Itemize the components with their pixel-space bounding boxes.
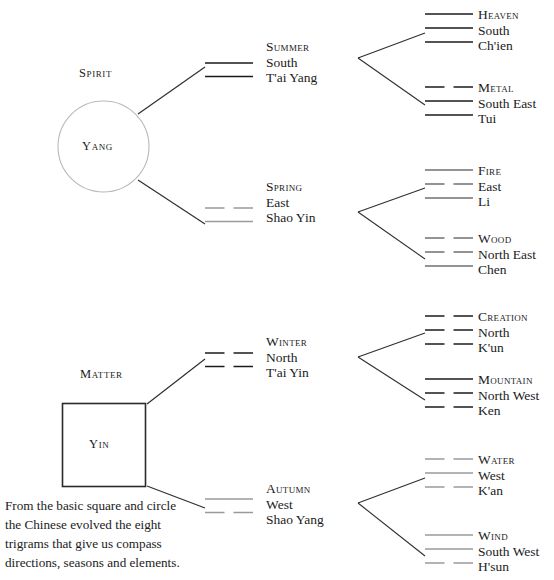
connector-yang-to-summer: [138, 67, 205, 114]
trigram-text-heaven: Heaven South Ch'ien: [478, 7, 519, 54]
season-text-autumn: Autumn West Shao Yang: [266, 481, 324, 528]
season-text-spring: Spring East Shao Yin: [266, 179, 315, 226]
connector-yin-to-winter: [147, 359, 205, 404]
connector-winter-to-mountain: [358, 357, 425, 400]
season-name-summer: Summer: [266, 39, 317, 55]
season-direction-autumn: West: [266, 497, 324, 513]
trigram-direction-mountain: North West: [478, 388, 539, 404]
trigram-chinese-metal: Tui: [478, 111, 536, 127]
trigram-direction-wind: South West: [478, 544, 539, 560]
trigram-name-heaven: Heaven: [478, 7, 519, 23]
season-chinese-autumn: Shao Yang: [266, 512, 324, 528]
season-chinese-winter: T'ai Yin: [266, 365, 309, 381]
connector-winter-to-creation: [358, 333, 425, 357]
trigram-direction-wood: North East: [478, 247, 536, 263]
shape-label-yin: Yin: [89, 437, 109, 452]
connector-autumn-to-water: [358, 478, 425, 503]
trigram-diagram: Spirit Matter Yang Yin Summer South T'ai…: [0, 0, 554, 580]
trigram-text-metal: Metal South East Tui: [478, 80, 536, 127]
trigram-chinese-water: K'an: [478, 483, 515, 499]
trigram-direction-heaven: South: [478, 23, 519, 39]
season-direction-spring: East: [266, 195, 315, 211]
trigram-chinese-wood: Chen: [478, 262, 536, 278]
connector-spring-to-wood: [358, 212, 425, 259]
season-text-winter: Winter North T'ai Yin: [266, 334, 309, 381]
caption-line-3: trigrams that give us compass: [5, 534, 162, 553]
trigram-name-wood: Wood: [478, 231, 536, 247]
caption-line-1: From the basic square and circle: [5, 496, 176, 515]
season-direction-summer: South: [266, 55, 317, 71]
trigram-text-mountain: Mountain North West Ken: [478, 372, 539, 419]
trigram-text-water: Water West K'an: [478, 452, 515, 499]
trigram-text-wood: Wood North East Chen: [478, 231, 536, 278]
connector-summer-to-metal: [358, 58, 425, 105]
trigram-text-wind: Wind South West H'sun: [478, 528, 539, 575]
season-chinese-spring: Shao Yin: [266, 210, 315, 226]
shape-label-yang: Yang: [82, 139, 113, 154]
root-heading-matter: Matter: [80, 367, 123, 382]
trigram-chinese-mountain: Ken: [478, 403, 539, 419]
season-chinese-summer: T'ai Yang: [266, 70, 317, 86]
season-text-summer: Summer South T'ai Yang: [266, 39, 317, 86]
root-heading-spirit: Spirit: [79, 66, 112, 81]
trigram-chinese-heaven: Ch'ien: [478, 38, 519, 54]
connector-spring-to-fire: [358, 188, 425, 212]
trigram-name-fire: Fire: [478, 163, 501, 179]
trigram-direction-fire: East: [478, 179, 501, 195]
connector-autumn-to-wind: [358, 503, 425, 556]
season-name-autumn: Autumn: [266, 481, 324, 497]
season-direction-winter: North: [266, 350, 309, 366]
trigram-text-fire: Fire East Li: [478, 163, 501, 210]
trigram-chinese-fire: Li: [478, 194, 501, 210]
trigram-name-water: Water: [478, 452, 515, 468]
trigram-text-creation: Creation North K'un: [478, 309, 528, 356]
season-name-winter: Winter: [266, 334, 309, 350]
trigram-chinese-wind: H'sun: [478, 559, 539, 575]
trigram-direction-creation: North: [478, 325, 528, 341]
connector-yang-to-spring: [138, 180, 205, 224]
trigram-direction-metal: South East: [478, 96, 536, 112]
caption-line-2: the Chinese evolved the eight: [5, 515, 161, 534]
trigram-name-wind: Wind: [478, 528, 539, 544]
trigram-direction-water: West: [478, 468, 515, 484]
trigram-name-metal: Metal: [478, 80, 536, 96]
trigram-chinese-creation: K'un: [478, 340, 528, 356]
caption-line-4: directions, seasons and elements.: [5, 553, 180, 572]
connector-summer-to-heaven: [358, 33, 425, 58]
trigram-name-mountain: Mountain: [478, 372, 539, 388]
season-name-spring: Spring: [266, 179, 315, 195]
trigram-name-creation: Creation: [478, 309, 528, 325]
